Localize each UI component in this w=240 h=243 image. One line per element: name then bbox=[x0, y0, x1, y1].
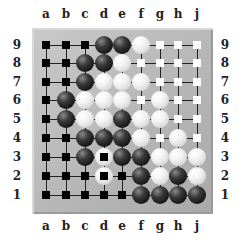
black-territory-marker-e2[interactable] bbox=[118, 172, 126, 180]
black-territory-marker-a5[interactable] bbox=[42, 115, 50, 123]
black-stone-d8[interactable] bbox=[95, 54, 113, 72]
row-label-right: 3 bbox=[217, 150, 233, 164]
black-territory-marker-a1[interactable] bbox=[42, 191, 50, 199]
white-stone-j2[interactable] bbox=[188, 167, 206, 185]
black-territory-marker-b8[interactable] bbox=[62, 59, 70, 67]
white-territory-marker-j7[interactable] bbox=[193, 78, 201, 86]
row-label-left: 5 bbox=[9, 112, 25, 126]
white-stone-f4[interactable] bbox=[132, 129, 150, 147]
black-stone-g1[interactable] bbox=[151, 186, 169, 204]
white-territory-marker-j5[interactable] bbox=[193, 115, 201, 123]
white-stone-d7[interactable] bbox=[95, 73, 113, 91]
white-stone-h3[interactable] bbox=[169, 148, 187, 166]
white-stone-g6[interactable] bbox=[151, 91, 169, 109]
white-territory-marker-g7[interactable] bbox=[156, 78, 164, 86]
black-stone-h1[interactable] bbox=[169, 186, 187, 204]
black-territory-marker-c2[interactable] bbox=[81, 172, 89, 180]
white-stone-d5[interactable] bbox=[95, 110, 113, 128]
black-territory-marker-a3[interactable] bbox=[42, 153, 50, 161]
white-stone-d6[interactable] bbox=[95, 91, 113, 109]
row-label-left: 9 bbox=[9, 38, 25, 52]
black-stone-f2[interactable] bbox=[132, 167, 150, 185]
row-label-right: 6 bbox=[217, 93, 233, 107]
row-label-left: 6 bbox=[9, 93, 25, 107]
white-territory-marker-h7[interactable] bbox=[174, 78, 182, 86]
column-label-top: b bbox=[58, 7, 74, 21]
row-label-left: 2 bbox=[9, 169, 25, 183]
column-label-top: h bbox=[170, 7, 186, 21]
black-territory-marker-b9[interactable] bbox=[62, 41, 70, 49]
black-territory-marker-d1[interactable] bbox=[100, 191, 108, 199]
white-stone-g3[interactable] bbox=[151, 148, 169, 166]
row-label-left: 7 bbox=[9, 75, 25, 89]
black-territory-marker-b4[interactable] bbox=[62, 134, 70, 142]
column-label-bottom: h bbox=[170, 219, 186, 233]
black-stone-d9[interactable] bbox=[95, 36, 113, 54]
white-stone-c5[interactable] bbox=[76, 110, 94, 128]
black-stone-d4[interactable] bbox=[95, 129, 113, 147]
white-stone-f9[interactable] bbox=[132, 36, 150, 54]
white-territory-marker-g4[interactable] bbox=[156, 134, 164, 142]
black-territory-marker-a7[interactable] bbox=[42, 78, 50, 86]
row-label-right: 2 bbox=[217, 169, 233, 183]
black-stone-e3[interactable] bbox=[113, 148, 131, 166]
black-stone-f1[interactable] bbox=[132, 186, 150, 204]
black-stone-b6[interactable] bbox=[57, 91, 75, 109]
black-territory-marker-e1[interactable] bbox=[118, 191, 126, 199]
black-territory-marker-b2[interactable] bbox=[62, 172, 70, 180]
white-territory-marker-f8[interactable] bbox=[137, 59, 145, 67]
white-territory-marker-g8[interactable] bbox=[156, 59, 164, 67]
black-territory-marker-b3[interactable] bbox=[62, 153, 70, 161]
black-stone-b5[interactable] bbox=[57, 110, 75, 128]
black-territory-marker-b1[interactable] bbox=[62, 191, 70, 199]
white-territory-marker-f6[interactable] bbox=[137, 96, 145, 104]
black-stone-f3[interactable] bbox=[132, 148, 150, 166]
white-territory-marker-j8[interactable] bbox=[193, 59, 201, 67]
white-territory-marker-h8[interactable] bbox=[174, 59, 182, 67]
black-stone-c8[interactable] bbox=[76, 54, 94, 72]
white-stone-h4[interactable] bbox=[169, 129, 187, 147]
white-stone-e8[interactable] bbox=[113, 54, 131, 72]
white-stone-c6[interactable] bbox=[76, 91, 94, 109]
white-territory-marker-j6[interactable] bbox=[193, 96, 201, 104]
black-stone-h2[interactable] bbox=[169, 167, 187, 185]
white-territory-marker-h5[interactable] bbox=[174, 115, 182, 123]
black-stone-c3[interactable] bbox=[76, 148, 94, 166]
white-stone-e7[interactable] bbox=[113, 73, 131, 91]
black-stone-e5[interactable] bbox=[113, 110, 131, 128]
black-territory-marker-c1[interactable] bbox=[81, 191, 89, 199]
black-territory-marker-a4[interactable] bbox=[42, 134, 50, 142]
white-territory-marker-g9[interactable] bbox=[156, 41, 164, 49]
column-label-bottom: g bbox=[152, 219, 168, 233]
black-territory-marker-a8[interactable] bbox=[42, 59, 50, 67]
white-territory-marker-h9[interactable] bbox=[174, 41, 182, 49]
column-label-top: g bbox=[152, 7, 168, 21]
black-territory-marker-a2[interactable] bbox=[42, 172, 50, 180]
white-territory-marker-h6[interactable] bbox=[174, 96, 182, 104]
column-label-top: d bbox=[96, 7, 112, 21]
black-stone-c7[interactable] bbox=[76, 73, 94, 91]
column-label-top: a bbox=[38, 7, 54, 21]
white-stone-f7[interactable] bbox=[132, 73, 150, 91]
black-territory-marker-a9[interactable] bbox=[42, 41, 50, 49]
white-stone-j3[interactable] bbox=[188, 148, 206, 166]
black-stone-c4[interactable] bbox=[76, 129, 94, 147]
black-stone-e4[interactable] bbox=[113, 129, 131, 147]
white-stone-e6[interactable] bbox=[113, 91, 131, 109]
white-territory-marker-j9[interactable] bbox=[193, 41, 201, 49]
column-label-bottom: a bbox=[38, 219, 54, 233]
black-territory-marker-b7[interactable] bbox=[62, 78, 70, 86]
black-stone-e9[interactable] bbox=[113, 36, 131, 54]
row-label-right: 1 bbox=[217, 188, 233, 202]
white-stone-f5[interactable] bbox=[132, 110, 150, 128]
white-stone-g2[interactable] bbox=[151, 167, 169, 185]
black-stone-j1[interactable] bbox=[188, 186, 206, 204]
column-label-bottom: c bbox=[77, 219, 93, 233]
dead-stone-marker-d3 bbox=[100, 153, 108, 161]
dead-stone-marker-d2 bbox=[100, 172, 108, 180]
white-stone-g5[interactable] bbox=[151, 110, 169, 128]
white-territory-marker-j4[interactable] bbox=[193, 134, 201, 142]
black-territory-marker-c9[interactable] bbox=[81, 41, 89, 49]
black-territory-marker-a6[interactable] bbox=[42, 96, 50, 104]
column-label-bottom: d bbox=[96, 219, 112, 233]
